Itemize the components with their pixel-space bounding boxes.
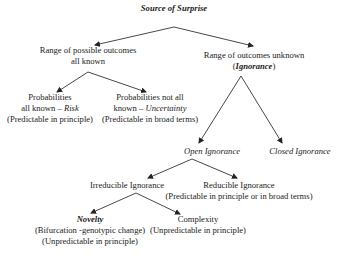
ignorance-emphasis: Ignorance: [236, 61, 273, 71]
node-unknown: Range of outcomes unknown (Ignorance): [204, 50, 304, 72]
node-novelty-line1: Novelty: [35, 214, 145, 225]
node-uncertainty-line3: (Predictable in broad terms): [102, 114, 198, 125]
arrow-open-to-irreducible: [148, 159, 192, 178]
arrow-irreducible-to-novelty: [91, 193, 136, 213]
arrow-known-to-risk: [57, 72, 88, 92]
uncertainty-emphasis: Uncertainty: [145, 103, 186, 113]
node-known: Range of possible outcomes all known: [40, 45, 137, 67]
node-complexity-line2: (Unpredictable in principle): [150, 225, 246, 236]
arrow-root-to-unknown: [174, 27, 253, 46]
arrow-unknown-to-closed: [241, 76, 282, 143]
node-closed-ignorance: Closed Ignorance: [269, 146, 330, 157]
node-risk-line2: all known – Risk: [7, 103, 93, 114]
arrow-root-to-known: [95, 27, 174, 45]
node-novelty: Novelty (Bifurcation -genotypic change) …: [35, 214, 145, 247]
arrow-known-to-uncertainty: [88, 72, 146, 92]
node-reducible-line2: (Predictable in principle or in broad te…: [165, 191, 312, 202]
node-uncertainty: Probabilities not all known – Uncertaint…: [102, 92, 198, 125]
node-open-ignorance: Open Ignorance: [184, 146, 240, 157]
risk-prefix: all known –: [21, 103, 64, 113]
node-reducible-line1: Reducible Ignorance: [165, 180, 312, 191]
node-novelty-line2: (Bifurcation -genotypic change): [35, 225, 145, 236]
node-uncertainty-line2: known – Uncertainty: [102, 103, 198, 114]
node-risk-line1: Probabilities: [7, 92, 93, 103]
node-uncertainty-line1: Probabilities not all: [102, 92, 198, 103]
node-irreducible: Irreducible Ignorance: [90, 180, 164, 191]
node-reducible: Reducible Ignorance (Predictable in prin…: [165, 180, 312, 202]
node-novelty-line3: (Unpredictable in principle): [35, 236, 145, 247]
arrow-open-to-reducible: [192, 159, 237, 178]
node-complexity-line1: Complexity: [150, 214, 246, 225]
root-title: Source of Surprise: [141, 3, 207, 14]
node-unknown-line2: (Ignorance): [204, 61, 304, 72]
node-known-line2: all known: [40, 56, 137, 67]
node-risk-line3: (Predictable in principle): [7, 114, 93, 125]
risk-emphasis: Risk: [64, 103, 79, 113]
uncertainty-prefix: known –: [113, 103, 145, 113]
node-risk: Probabilities all known – Risk (Predicta…: [7, 92, 93, 125]
node-complexity: Complexity (Unpredictable in principle): [150, 214, 246, 236]
arrow-unknown-to-open: [199, 76, 241, 143]
paren-close: ): [272, 61, 275, 71]
node-unknown-line1: Range of outcomes unknown: [204, 50, 304, 61]
node-known-line1: Range of possible outcomes: [40, 45, 137, 56]
